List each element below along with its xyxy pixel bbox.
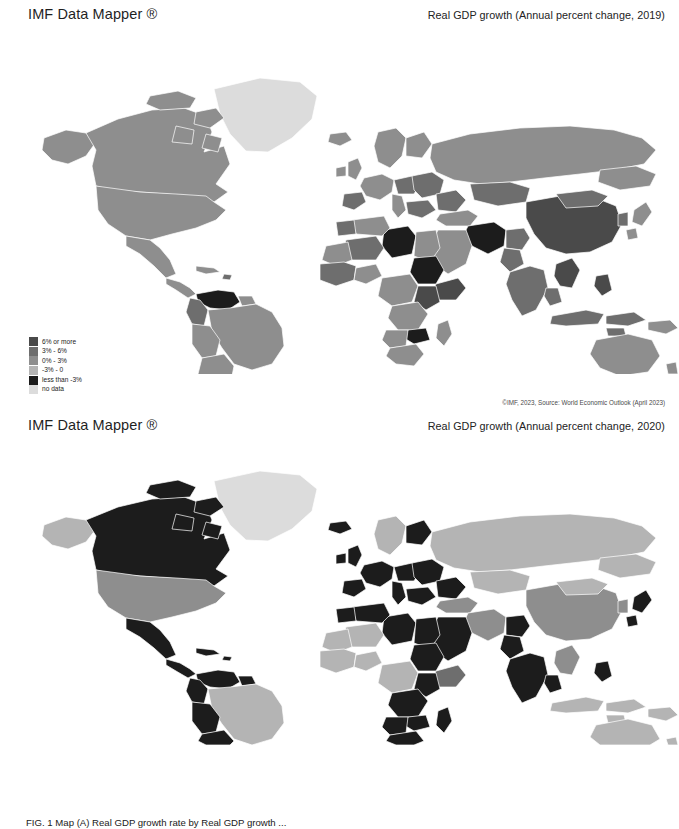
legend-item[interactable]: less than -3%	[29, 375, 82, 385]
legend-swatch	[29, 376, 38, 385]
legend-item[interactable]: no data	[29, 385, 82, 395]
legend-item[interactable]: 0% - 3%	[29, 356, 82, 366]
legend-label: less than -3%	[42, 377, 82, 384]
world-map-2020[interactable]	[0, 445, 679, 745]
figure-caption: FIG. 1 Map (A) Real GDP growth rate by R…	[26, 817, 666, 829]
map-legend-2019: 6% or more 3% - 6% 0% - 3% -3% - 0 less …	[29, 337, 82, 395]
legend-label: no data	[42, 387, 64, 394]
legend-swatch	[29, 366, 38, 375]
legend-swatch	[29, 337, 38, 346]
legend-swatch	[29, 385, 38, 394]
map-panel-2020: IMF Data Mapper ® Real GDP growth (Annua…	[0, 411, 679, 771]
map-panel-2019: IMF Data Mapper ® Real GDP growth (Annua…	[0, 0, 679, 411]
map-header-2020: IMF Data Mapper ® Real GDP growth (Annua…	[0, 411, 679, 445]
world-map-2019[interactable]	[0, 34, 679, 374]
legend-item[interactable]: 3% - 6%	[29, 347, 82, 357]
imf-data-mapper-brand: IMF Data Mapper ®	[28, 417, 157, 433]
imf-data-mapper-brand: IMF Data Mapper ®	[28, 6, 157, 22]
legend-label: 3% - 6%	[42, 348, 67, 355]
legend-item[interactable]: 6% or more	[29, 337, 82, 347]
map-title-2019: Real GDP growth (Annual percent change, …	[428, 9, 665, 21]
legend-label: -3% - 0	[42, 368, 63, 375]
map-title-2020: Real GDP growth (Annual percent change, …	[428, 420, 665, 432]
legend-item[interactable]: -3% - 0	[29, 366, 82, 376]
legend-swatch	[29, 347, 38, 356]
imf-data-mapper-page: IMF Data Mapper ® Real GDP growth (Annua…	[0, 0, 679, 829]
world-map-svg-2020	[0, 445, 679, 745]
map-attribution-2019: ©IMF, 2023, Source: World Economic Outlo…	[502, 399, 665, 406]
map-header-2019: IMF Data Mapper ® Real GDP growth (Annua…	[0, 0, 679, 34]
legend-label: 0% - 3%	[42, 358, 67, 365]
legend-swatch	[29, 356, 38, 365]
legend-label: 6% or more	[42, 339, 76, 346]
world-map-svg-2019	[0, 34, 679, 374]
